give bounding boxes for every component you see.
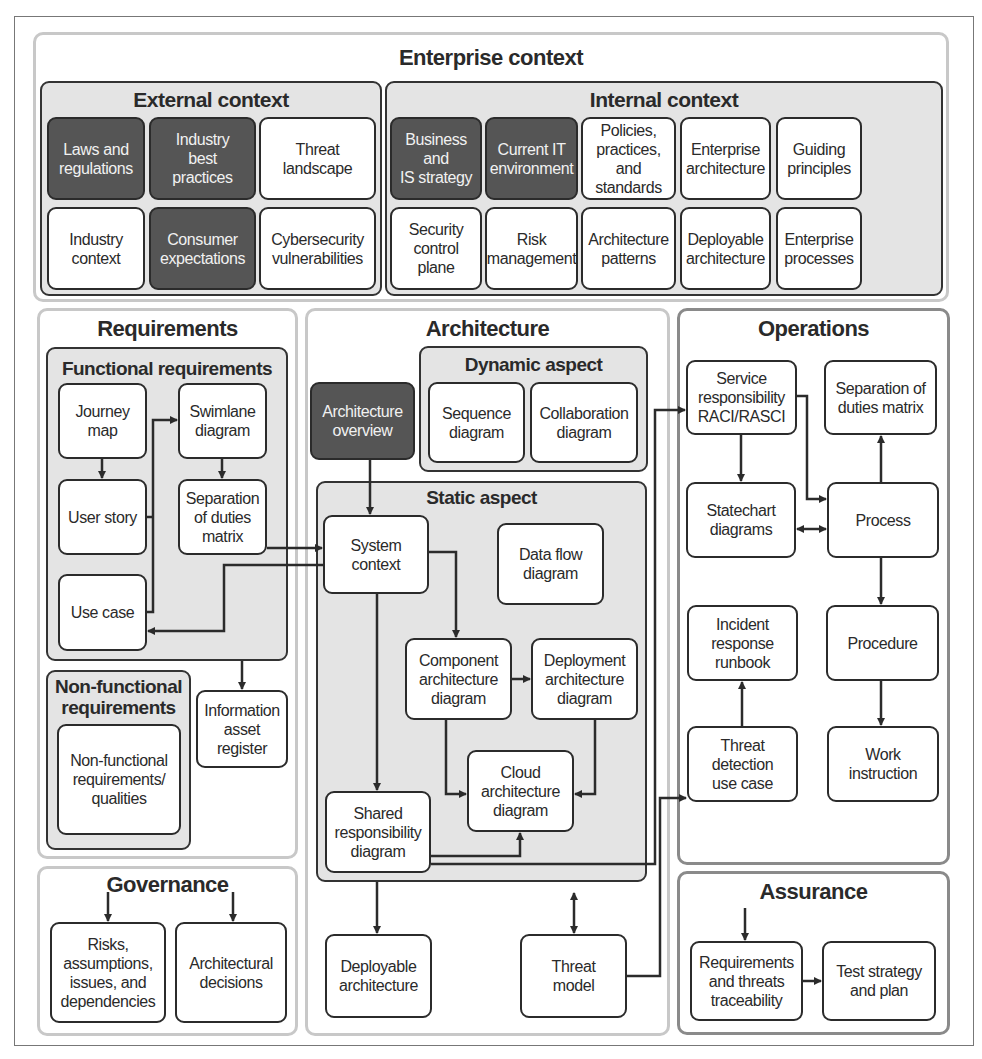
test-strategy-plan-box: Test strategy and plan — [822, 941, 936, 1021]
separation-of-duties-matrix-req-box: Separation of duties matrix — [178, 479, 267, 555]
collaboration-diagram-box: Collaboration diagram — [530, 382, 638, 463]
enterprise-architecture-box: Enterprise architecture — [680, 117, 771, 200]
deployable-architecture-box: Deployable architecture — [325, 934, 432, 1018]
requirements-title: Requirements — [37, 316, 298, 342]
system-context-box: System context — [323, 515, 429, 594]
cybersecurity-vulnerabilities-box: Cybersecurity vulnerabilities — [259, 207, 376, 290]
data-flow-diagram-box: Data flow diagram — [497, 523, 604, 605]
work-instruction-box: Work instruction — [827, 726, 939, 802]
consumer-expectations-box: Consumer expectations — [149, 207, 256, 290]
enterprise-context-title: Enterprise context — [33, 45, 949, 71]
non-functional-requirements-title: Non-functional requirements — [46, 676, 191, 718]
current-it-environment-box: Current IT environment — [485, 117, 578, 200]
cloud-architecture-diagram-box: Cloud architecture diagram — [467, 750, 574, 832]
use-case-box: Use case — [58, 574, 147, 651]
component-architecture-diagram-box: Component architecture diagram — [405, 638, 512, 720]
governance-title: Governance — [37, 872, 298, 898]
industry-context-box: Industry context — [47, 207, 145, 290]
non-functional-qualities-box: Non-functional requirements/ qualities — [57, 724, 181, 835]
incident-response-runbook-box: Incident response runbook — [687, 605, 798, 681]
operations-title: Operations — [677, 316, 950, 342]
separation-of-duties-matrix-ops-box: Separation of duties matrix — [824, 360, 937, 435]
guiding-principles-box: Guiding principles — [776, 117, 862, 200]
security-control-plane-box: Security control plane — [390, 207, 482, 290]
internal-context-title: Internal context — [385, 88, 943, 112]
industry-best-practices-box: Industry best practices — [149, 117, 256, 200]
architecture-patterns-box: Architecture patterns — [581, 207, 676, 290]
raid-box: Risks, assumptions, issues, and dependen… — [50, 922, 166, 1023]
user-story-box: User story — [58, 479, 147, 555]
service-responsibility-raci-box: Service responsibility RACI/RASCI — [686, 360, 797, 435]
procedure-box: Procedure — [826, 605, 939, 681]
deployable-architecture-enterprise-box: Deployable architecture — [680, 207, 771, 290]
dynamic-aspect-title: Dynamic aspect — [419, 354, 648, 375]
information-asset-register-box: Information asset register — [196, 690, 288, 768]
static-aspect-title: Static aspect — [316, 487, 647, 508]
risk-management-box: Risk management — [485, 207, 578, 290]
sequence-diagram-box: Sequence diagram — [428, 382, 525, 463]
swimlane-diagram-box: Swimlane diagram — [178, 383, 267, 459]
laws-and-regulations-box: Laws and regulations — [47, 117, 145, 200]
requirements-threats-traceability-box: Requirements and threats traceability — [690, 941, 803, 1021]
threat-model-box: Threat model — [520, 934, 627, 1018]
assurance-title: Assurance — [677, 879, 950, 905]
enterprise-processes-box: Enterprise processes — [776, 207, 862, 290]
deployment-architecture-diagram-box: Deployment architecture diagram — [531, 638, 638, 720]
functional-requirements-title: Functional requirements — [46, 358, 288, 379]
threat-detection-use-case-box: Threat detection use case — [687, 726, 798, 802]
architecture-overview-box: Architecture overview — [310, 382, 415, 460]
journey-map-box: Journey map — [58, 383, 147, 459]
statechart-diagrams-box: Statechart diagrams — [686, 482, 796, 558]
architecture-title: Architecture — [305, 316, 670, 342]
process-box: Process — [827, 482, 939, 558]
external-context-title: External context — [40, 88, 382, 112]
architectural-decisions-box: Architectural decisions — [175, 922, 287, 1023]
business-is-strategy-box: Business and IS strategy — [390, 117, 482, 200]
shared-responsibility-diagram-box: Shared responsibility diagram — [325, 791, 431, 873]
threat-landscape-box: Threat landscape — [259, 117, 376, 200]
policies-practices-standards-box: Policies, practices, and standards — [581, 117, 676, 200]
